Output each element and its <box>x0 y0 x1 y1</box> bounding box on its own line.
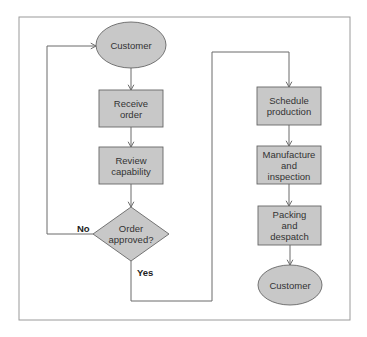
node-label: Packing <box>273 209 307 220</box>
node-manufacture-inspection: Manufactureandinspection <box>257 146 321 184</box>
node-customer-start: Customer <box>96 22 166 68</box>
node-packing-despatch: Packinganddespatch <box>258 206 321 245</box>
node-label: order <box>120 109 142 120</box>
node-review-capability: Reviewcapability <box>99 147 163 184</box>
node-schedule-production: Scheduleproduction <box>257 87 321 125</box>
node-label: production <box>267 106 311 117</box>
node-receive-order: Receiveorder <box>99 90 163 127</box>
flowchart-canvas: CustomerReceiveorderReviewcapabilityOrde… <box>0 0 367 337</box>
node-label: despatch <box>270 231 309 242</box>
node-label: Customer <box>110 40 151 51</box>
node-label: Order <box>119 223 143 234</box>
node-label: Review <box>115 155 146 166</box>
node-order-approved: Orderapproved? <box>93 207 169 261</box>
node-customer-end: Customer <box>258 265 322 305</box>
edge-label-no: No <box>77 223 90 234</box>
node-label: Receive <box>114 98 148 109</box>
nodes: CustomerReceiveorderReviewcapabilityOrde… <box>93 22 322 305</box>
node-label: Customer <box>269 280 310 291</box>
connector-order-approved-to-customer-start <box>47 46 96 234</box>
node-label: Manufacture <box>263 149 316 160</box>
node-label: approved? <box>109 234 154 245</box>
node-label: and <box>282 220 298 231</box>
connectors <box>47 43 293 301</box>
flowchart-diagram: CustomerReceiveorderReviewcapabilityOrde… <box>0 0 367 337</box>
edge-label-yes: Yes <box>137 267 153 278</box>
node-label: Schedule <box>269 95 309 106</box>
node-label: and <box>281 160 297 171</box>
node-label: capability <box>111 166 151 177</box>
node-label: inspection <box>268 171 311 182</box>
